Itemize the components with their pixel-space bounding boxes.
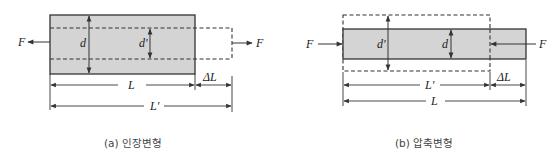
diameter-d-prime-label: d' [377, 37, 386, 51]
panel-b-compression: F F d' d L' ΔL L (b) 압축변형 [305, 15, 547, 149]
diameter-d-prime-label: d' [139, 36, 148, 50]
force-label-right: F [538, 37, 547, 51]
force-label-right: F [255, 36, 264, 50]
contraction-deltaL-label: ΔL [496, 70, 511, 84]
length-L-prime-label: L' [149, 99, 160, 113]
elongation-deltaL-label: ΔL [202, 70, 217, 84]
force-label-left: F [305, 37, 314, 51]
length-L-prime-label: L' [424, 78, 435, 92]
diameter-d-label: d [442, 37, 449, 51]
caption-a: (a) 인장변형 [104, 137, 162, 149]
force-label-left: F [17, 35, 26, 49]
deformation-diagram: F F d d' L ΔL L' (a) 인장변형 [0, 0, 556, 162]
length-L-label: L [127, 78, 135, 92]
diameter-d-label: d [80, 36, 87, 50]
panel-a-tension: F F d d' L ΔL L' (a) 인장변형 [17, 15, 264, 149]
original-bar [50, 15, 195, 74]
length-L-label: L [430, 94, 438, 108]
caption-b: (b) 압축변형 [395, 137, 453, 149]
